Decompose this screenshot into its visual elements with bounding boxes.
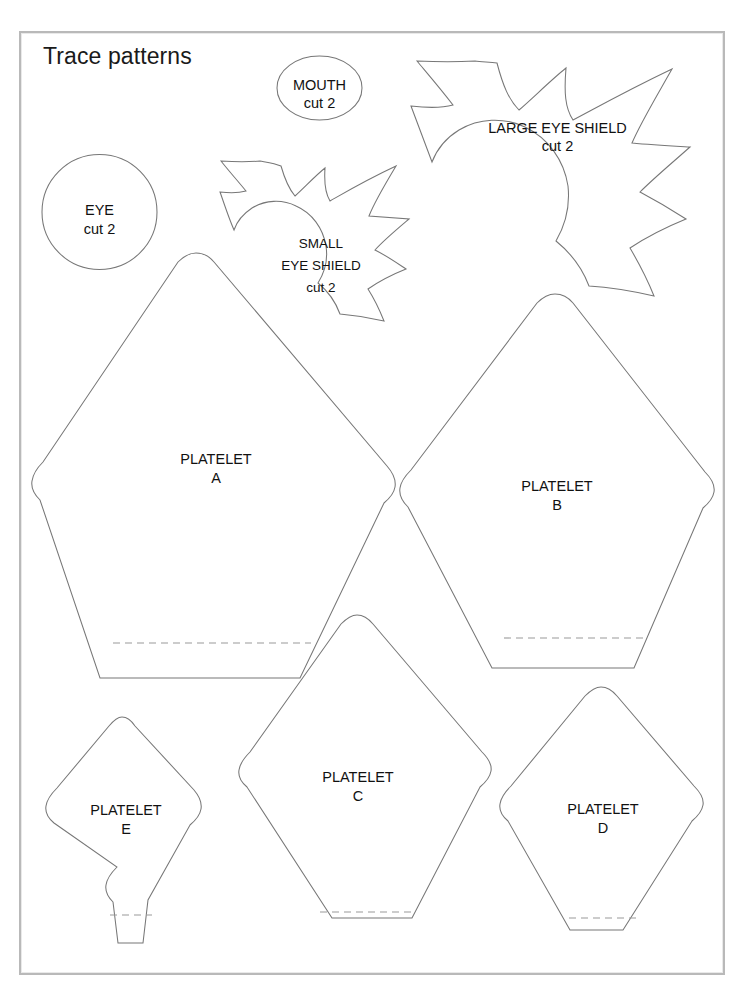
pattern-piece-platelet-e[interactable]: PLATELET E xyxy=(46,717,201,943)
platelet-c-label-name: PLATELET xyxy=(322,769,394,785)
pattern-piece-eye[interactable]: EYE cut 2 xyxy=(42,155,157,270)
pattern-piece-large-eye-shield[interactable]: LARGE EYE SHIELD cut 2 xyxy=(411,61,690,296)
eye-label-name: EYE xyxy=(85,202,114,218)
pattern-artwork: EYE cut 2 MOUTH cut 2 LARGE EYE SHIELD c… xyxy=(0,0,750,1001)
mouth-label-name: MOUTH xyxy=(293,77,346,93)
pattern-sheet: Trace patterns EYE cut 2 MOUTH cut 2 LAR… xyxy=(0,0,750,1001)
platelet-d-label-name: PLATELET xyxy=(567,801,639,817)
platelet-b-label-name: PLATELET xyxy=(521,478,593,494)
mouth-label-quantity: cut 2 xyxy=(304,95,335,111)
platelet-e-label-name: PLATELET xyxy=(90,802,162,818)
pattern-piece-platelet-d[interactable]: PLATELET D xyxy=(500,687,703,930)
pattern-piece-mouth[interactable]: MOUTH cut 2 xyxy=(277,56,362,120)
large-eye-shield-outline xyxy=(411,61,690,296)
large-eye-shield-label-name: LARGE EYE SHIELD xyxy=(488,120,627,136)
pattern-piece-platelet-a[interactable]: PLATELET A xyxy=(32,253,395,678)
small-eye-shield-label-line1: SMALL xyxy=(299,236,344,251)
small-eye-shield-label-line2: EYE SHIELD xyxy=(281,258,361,273)
pattern-piece-platelet-b[interactable]: PLATELET B xyxy=(400,294,714,668)
small-eye-shield-label-quantity: cut 2 xyxy=(306,280,335,295)
pattern-piece-small-eye-shield[interactable]: SMALL EYE SHIELD cut 2 xyxy=(220,161,409,321)
platelet-a-label-letter: A xyxy=(211,470,221,486)
platelet-a-label-name: PLATELET xyxy=(180,451,252,467)
platelet-c-label-letter: C xyxy=(353,788,363,804)
large-eye-shield-label-quantity: cut 2 xyxy=(542,138,573,154)
platelet-d-label-letter: D xyxy=(598,820,608,836)
platelet-e-label-letter: E xyxy=(121,821,131,837)
platelet-b-label-letter: B xyxy=(552,497,562,513)
eye-label-quantity: cut 2 xyxy=(84,221,115,237)
